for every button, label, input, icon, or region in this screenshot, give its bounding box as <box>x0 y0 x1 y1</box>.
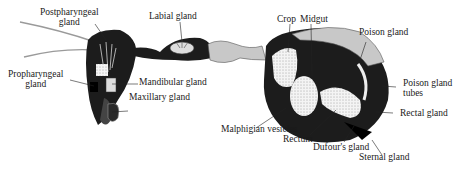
label-maxillary-gland: Maxillary gland <box>129 92 190 102</box>
label-rectum: Rectum <box>283 134 313 144</box>
thorax <box>132 38 213 61</box>
label-postpharyngeal-gland: Postpharyngeal gland <box>40 7 99 27</box>
label-poison-gland: Poison gland <box>359 27 408 37</box>
label-malphigian-vesicles: Malphigian vesicles <box>221 124 297 134</box>
label-sternal-gland: Sternal gland <box>359 152 409 162</box>
ant-gland-diagram: Postpharyngeal gland Labial gland Propha… <box>0 0 461 171</box>
label-line-2: tubes <box>403 88 452 98</box>
label-propharyngeal-gland: Propharyngeal gland <box>8 69 63 89</box>
label-crop: Crop <box>277 14 296 24</box>
label-line-1: Propharyngeal <box>8 69 63 79</box>
head <box>86 30 136 125</box>
label-line-1: Postpharyngeal <box>40 7 99 17</box>
label-line-2: gland <box>8 79 63 89</box>
label-rectal-gland: Rectal gland <box>400 108 448 118</box>
label-dufours-gland: Dufour's gland <box>313 142 369 152</box>
label-mandibular-gland: Mandibular gland <box>139 77 207 87</box>
label-midgut: Midgut <box>300 14 328 24</box>
petiole <box>208 41 266 63</box>
label-labial-gland: Labial gland <box>149 11 197 21</box>
label-line-2: gland <box>40 17 99 27</box>
antennae <box>20 22 95 57</box>
label-line-1: Poison gland <box>403 78 452 88</box>
label-poison-gland-tubes: Poison gland tubes <box>403 78 452 98</box>
